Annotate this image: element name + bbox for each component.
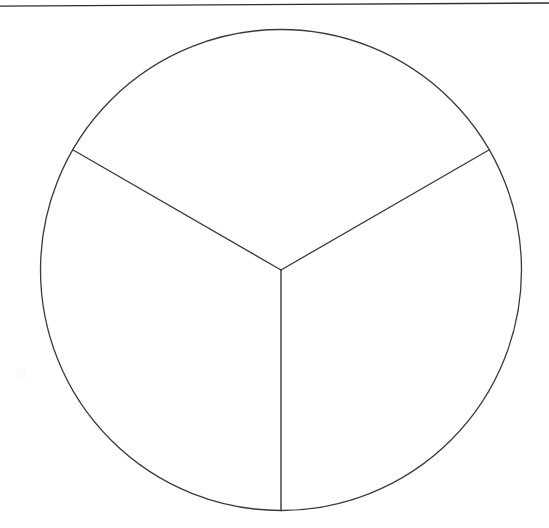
- circle-thirds-figure: [0, 0, 549, 528]
- figure-page: circle divided into three equal sectors …: [0, 0, 549, 528]
- top-horizontal-rule: [0, 3, 549, 6]
